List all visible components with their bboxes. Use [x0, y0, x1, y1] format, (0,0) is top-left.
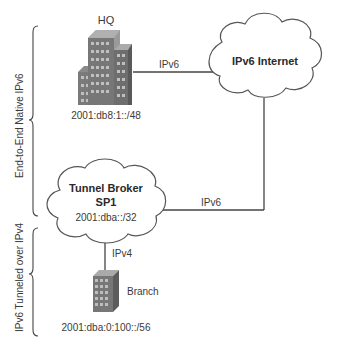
- bracket-bottom: [29, 228, 38, 336]
- bracket-label-bottom: IPv6 Tunneled over IPv4: [14, 223, 25, 332]
- bracket-label-top: End-to-End Native IPv6: [14, 74, 25, 179]
- diagram-canvas: [0, 0, 338, 350]
- link-label-broker-internet: IPv6: [201, 197, 221, 208]
- link-label-hq-internet: IPv6: [159, 59, 179, 70]
- branch-label: Branch: [127, 286, 159, 297]
- branch-prefix: 2001:dba:0:100::/56: [62, 322, 151, 333]
- link-label-broker-branch: IPv4: [112, 248, 132, 259]
- internet-label: IPv6 Internet: [232, 55, 298, 67]
- bracket-top: [29, 26, 38, 216]
- broker-label-line1: Tunnel Broker: [69, 182, 143, 194]
- hq-prefix: 2001:db8:1::/48: [71, 110, 141, 121]
- small-building-icon-branch: [93, 270, 119, 312]
- office-building-icon-hq: [78, 30, 132, 105]
- hq-label: HQ: [98, 14, 115, 26]
- broker-prefix: 2001:dba::/32: [75, 212, 136, 223]
- broker-label-line2: SP1: [96, 196, 117, 208]
